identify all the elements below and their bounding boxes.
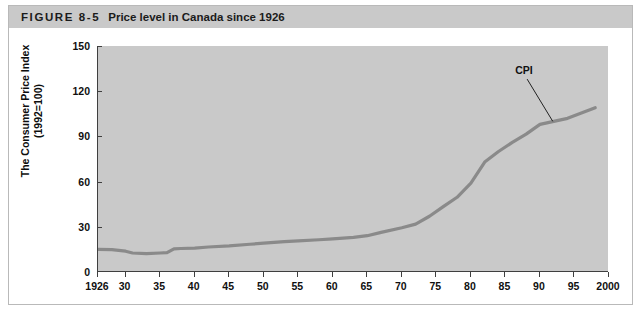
x-tick-mark	[228, 272, 229, 277]
x-tick-mark	[573, 272, 574, 277]
x-tick-label: 45	[222, 280, 234, 293]
x-tick-label: 90	[533, 280, 545, 293]
y-tick-label: 30	[56, 221, 90, 233]
x-tick-mark	[608, 272, 609, 277]
y-tick-mark	[97, 91, 102, 92]
cpi-line-chart	[98, 46, 609, 272]
x-tick-label: 75	[430, 280, 442, 293]
y-axis-title-line-2: (1992=100)	[32, 16, 45, 206]
y-tick-mark	[97, 136, 102, 137]
x-tick-label: 55	[291, 280, 303, 293]
x-tick-label: 80	[464, 280, 476, 293]
x-tick-mark	[297, 272, 298, 277]
x-tick-mark	[332, 272, 333, 277]
x-tick-label: 2000	[596, 280, 619, 293]
cpi-annotation-label: CPI	[515, 64, 533, 76]
plot-area	[97, 46, 608, 272]
x-tick-label: 85	[499, 280, 511, 293]
y-tick-label: 150	[56, 40, 90, 52]
y-tick-label: 0	[56, 266, 90, 278]
figure-container: FIGURE 8-5Price level in Canada since 19…	[0, 0, 641, 314]
x-tick-mark	[539, 272, 540, 277]
x-tick-mark	[435, 272, 436, 277]
x-tick-label: 40	[188, 280, 200, 293]
x-tick-label: 60	[326, 280, 338, 293]
y-axis-tick-labels: 0306090120150	[52, 0, 90, 314]
figure-title: Price level in Canada since 1926	[108, 11, 284, 23]
y-tick-mark	[97, 46, 102, 47]
y-tick-mark	[97, 182, 102, 183]
x-tick-label: 65	[360, 280, 372, 293]
x-tick-label: 95	[568, 280, 580, 293]
cpi-data-line	[98, 108, 595, 254]
x-tick-mark	[401, 272, 402, 277]
x-tick-mark	[366, 272, 367, 277]
x-tick-label: 35	[153, 280, 165, 293]
x-tick-label: 70	[395, 280, 407, 293]
y-axis-title-line-1: The Consumer Price Index	[19, 16, 32, 206]
x-tick-label: 1926	[85, 280, 108, 293]
x-tick-mark	[194, 272, 195, 277]
x-tick-mark	[263, 272, 264, 277]
y-tick-label: 90	[56, 130, 90, 142]
y-tick-mark	[97, 227, 102, 228]
y-axis-title: The Consumer Price Index (1992=100)	[19, 16, 45, 206]
y-tick-label: 120	[56, 85, 90, 97]
x-tick-mark	[470, 272, 471, 277]
x-tick-label: 50	[257, 280, 269, 293]
x-tick-label: 30	[119, 280, 131, 293]
y-tick-label: 60	[56, 176, 90, 188]
x-tick-mark	[125, 272, 126, 277]
x-tick-mark	[97, 272, 98, 277]
x-tick-mark	[504, 272, 505, 277]
x-tick-mark	[159, 272, 160, 277]
